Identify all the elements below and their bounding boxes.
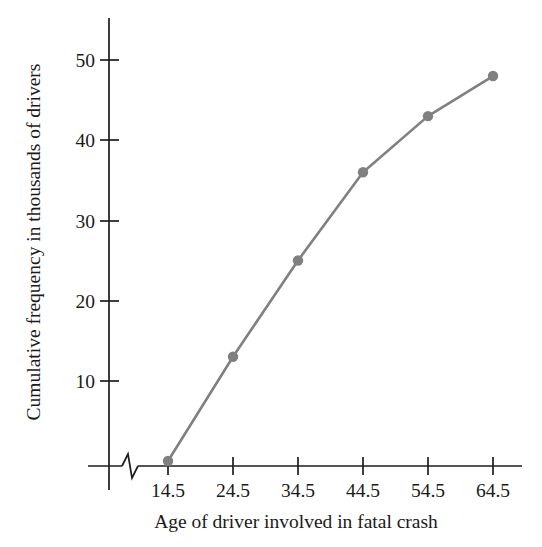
chart-plot-area: 50 40 30 20 10 14.5 24.5 34.5 44.5 54.5 … (0, 0, 542, 547)
x-tick-label-44-5: 44.5 (346, 480, 380, 501)
x-tick-label-54-5: 54.5 (411, 480, 445, 501)
axis-break-icon (122, 454, 138, 478)
y-tick-label-30: 30 (76, 211, 96, 232)
y-tick-label-20: 20 (76, 291, 96, 312)
x-axis-title: Age of driver involved in fatal crash (154, 511, 438, 532)
x-tick-label-24-5: 24.5 (216, 480, 250, 501)
data-point (293, 255, 303, 265)
data-point (228, 352, 238, 362)
y-tick-label-10: 10 (76, 371, 96, 392)
data-point (358, 167, 368, 177)
y-tick-label-40: 40 (76, 130, 96, 151)
y-tick-label-50: 50 (76, 50, 96, 71)
x-tick-label-14-5: 14.5 (151, 480, 185, 501)
cumulative-frequency-line (168, 76, 493, 461)
cumulative-frequency-chart: 50 40 30 20 10 14.5 24.5 34.5 44.5 54.5 … (0, 0, 542, 547)
y-axis-title: Cumulative frequency in thousands of dri… (23, 64, 44, 421)
x-tick-label-64-5: 64.5 (476, 480, 510, 501)
x-tick-label-34-5: 34.5 (281, 480, 315, 501)
data-point (163, 456, 173, 466)
data-point-markers (163, 71, 498, 466)
data-point (488, 71, 498, 81)
data-point (423, 111, 433, 121)
